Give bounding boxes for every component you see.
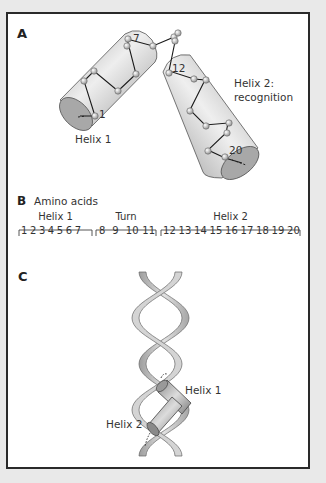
group-helix1-residues: 1 2 3 4 5 6 7 — [21, 225, 81, 236]
group-helix2-title: Helix 2 — [161, 211, 300, 222]
group-helix1-title: Helix 1 — [19, 211, 92, 222]
panel-b-label: B — [17, 194, 26, 208]
panelC-helix1-label: Helix 1 — [185, 384, 221, 396]
residue-label-7: 7 — [133, 32, 140, 44]
group-turn-residues: 8 9 10 11 — [99, 225, 155, 236]
residue-label-12: 12 — [172, 62, 185, 74]
panel-a-label: A — [17, 26, 27, 41]
residue-label-20: 20 — [229, 144, 242, 156]
helix2-sublabel: recognition — [234, 91, 293, 103]
group-helix2-residues: 12 13 14 15 16 17 18 19 20 — [163, 225, 300, 236]
helix1-label: Helix 1 — [75, 133, 111, 145]
panelC-helix2-label: Helix 2 — [106, 418, 142, 430]
helix1-cylinder — [53, 31, 157, 137]
helix2-label: Helix 2: — [234, 77, 274, 89]
panelC-helix1-dashes — [161, 374, 167, 378]
amino-acids-title: Amino acids — [34, 195, 98, 207]
group-turn-title: Turn — [96, 211, 156, 222]
figure-graphics — [0, 0, 326, 483]
panel-c-label: C — [18, 269, 28, 284]
residue-label-1: 1 — [99, 108, 106, 120]
